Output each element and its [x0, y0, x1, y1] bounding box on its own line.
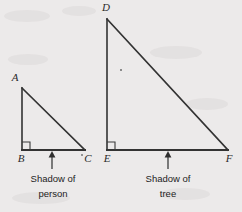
person-triangle-hypotenuse-AC — [22, 88, 85, 150]
person-triangle-group: A B C Shadow of person — [11, 71, 93, 199]
c-label-speck — [81, 154, 83, 156]
tree-shadow-arrow-head — [165, 151, 172, 158]
right-angle-marker-B — [22, 142, 30, 150]
vertex-label-C: C — [84, 152, 92, 164]
vertex-label-B: B — [18, 152, 25, 164]
right-angle-marker-E — [107, 142, 115, 150]
person-caption-line2: person — [38, 188, 67, 199]
tree-shadow-arrow — [165, 151, 172, 169]
tree-caption-line2: tree — [160, 188, 176, 199]
tree-triangle-group: D E F Shadow of tree — [101, 1, 233, 199]
geometry-figure: A B C Shadow of person — [0, 0, 242, 212]
vertex-label-D: D — [101, 1, 110, 13]
tree-triangle-hypotenuse-DF — [107, 19, 228, 150]
tree-caption-line1: Shadow of — [146, 173, 191, 184]
vertex-label-E: E — [103, 152, 111, 164]
vertex-label-F: F — [225, 152, 233, 164]
interior-speck — [120, 69, 122, 71]
person-caption-line1: Shadow of — [31, 173, 76, 184]
vertex-label-A: A — [11, 71, 19, 83]
diagram-canvas: A B C Shadow of person — [0, 0, 242, 212]
person-shadow-arrow — [49, 151, 56, 169]
person-shadow-arrow-head — [49, 151, 56, 158]
